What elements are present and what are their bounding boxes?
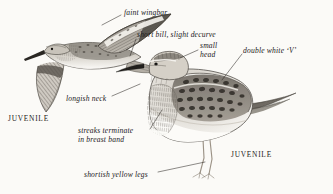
label-streaks-terminate: streaks terminate in breast band	[78, 126, 133, 144]
field-guide-plate: faint wingbar short bill, slight decurve…	[0, 0, 333, 194]
label-shortish-yellow-legs: shortish yellow legs	[84, 170, 148, 179]
label-longish-neck: longish neck	[66, 94, 106, 103]
label-short-bill: short bill, slight decurve	[137, 30, 216, 39]
label-double-white-v: double white ‘V’	[243, 46, 297, 55]
caption-juvenile-standing: JUVENILE	[231, 150, 272, 159]
label-faint-wingbar: faint wingbar	[124, 8, 167, 17]
label-small-head: small head	[200, 41, 217, 59]
caption-juvenile-flight: JUVENILE	[8, 114, 49, 123]
eye	[51, 48, 53, 50]
